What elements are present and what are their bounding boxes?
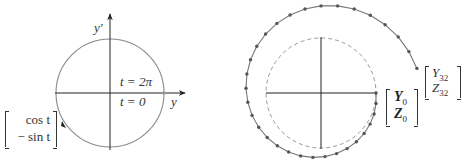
spiral-step-dot — [335, 152, 338, 155]
spiral-step-dot — [368, 122, 371, 125]
spiral-step-dot — [249, 58, 252, 61]
spiral-step-dot — [397, 35, 400, 38]
z32-entry: Z32 — [432, 80, 448, 98]
spiral-step-dot — [303, 7, 306, 10]
spiral-step-dot — [245, 72, 248, 75]
start-point — [162, 91, 166, 95]
z0-entry: Z0 — [394, 106, 407, 124]
spiral-step-dot — [345, 147, 348, 150]
spiral-step-dot — [257, 126, 260, 129]
spiral-step-dot — [383, 23, 386, 26]
spiral-step-dot — [288, 13, 291, 16]
spiral-step-dot — [369, 14, 372, 17]
spiral-step-dot — [372, 112, 375, 115]
spiral-step-dot — [362, 132, 365, 135]
right-figure — [244, 4, 418, 159]
vector-y32-z32: Y32 Z32 — [425, 66, 461, 98]
label-t-2pi: t = 2π — [120, 74, 152, 90]
spiral-dots — [244, 4, 418, 159]
spiral-step-dot — [299, 154, 302, 157]
vector-bottom-entry: − sin t — [17, 129, 50, 145]
label-t-0: t = 0 — [120, 94, 145, 110]
label-y: y — [171, 94, 177, 110]
spiral-step-dot — [250, 114, 253, 117]
spiral-step-dot — [255, 45, 258, 48]
direction-arrow-icon — [61, 121, 66, 128]
spiral-step-dot — [407, 50, 410, 53]
vector-y0-z0: Y0 Z0 — [386, 89, 418, 125]
label-yprime: y′ — [94, 20, 103, 36]
spiral-step-dot — [415, 67, 418, 70]
spiral-step-dot — [355, 140, 358, 143]
spiral-step-dot — [336, 4, 339, 7]
spiral-step-dot — [266, 136, 269, 139]
vector-top-entry: cos t — [26, 112, 50, 128]
spiral-step-dot — [244, 87, 247, 90]
spiral-step-dot — [275, 22, 278, 25]
spiral-path — [246, 6, 417, 158]
spiral-step-dot — [374, 91, 377, 94]
spiral-step-dot — [353, 7, 356, 10]
spiral-step-dot — [287, 150, 290, 153]
y0-entry: Y0 — [394, 89, 407, 107]
spiral-step-dot — [319, 4, 322, 7]
spiral-step-dot — [311, 156, 314, 159]
vector-cos-sin: cos t − sin t — [5, 111, 57, 147]
spiral-step-dot — [374, 102, 377, 105]
spiral-step-dot — [276, 144, 279, 147]
spiral-step-dot — [264, 32, 267, 35]
diagram-canvas — [0, 0, 465, 166]
spiral-step-dot — [246, 101, 249, 104]
spiral-step-dot — [323, 155, 326, 158]
